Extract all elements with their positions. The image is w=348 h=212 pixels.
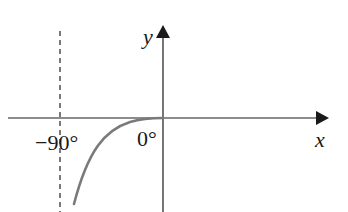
y-axis-arrow-icon (156, 25, 170, 38)
x-axis-arrow-icon (316, 111, 329, 125)
y-axis-label: y (141, 24, 153, 49)
graph: y x −90° 0° (0, 0, 348, 212)
x-axis-label: x (314, 127, 325, 152)
tick-label-neg90: −90° (35, 130, 78, 155)
tick-label-zero: 0° (137, 126, 157, 151)
